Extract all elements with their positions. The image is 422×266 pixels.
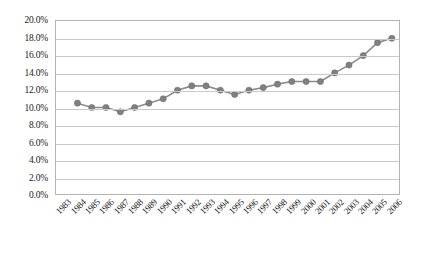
y-tick-label: 16.0% (24, 50, 48, 60)
data-point-marker (89, 104, 95, 110)
gridline (56, 144, 399, 145)
y-tick-label: 2.0% (29, 173, 48, 183)
data-point-marker (346, 62, 352, 68)
data-point-marker (74, 100, 80, 106)
data-point-marker (203, 83, 209, 89)
data-point-marker (132, 104, 138, 110)
data-point-marker (317, 78, 323, 84)
y-tick-label: 8.0% (29, 120, 48, 130)
y-tick-label: 0.0% (29, 190, 48, 200)
y-tick-label: 18.0% (24, 33, 48, 43)
y-tick-label: 14.0% (24, 68, 48, 78)
data-point-marker (146, 100, 152, 106)
gridline (56, 161, 399, 162)
gridline (56, 56, 399, 57)
data-point-marker (374, 40, 380, 46)
data-point-marker (303, 78, 309, 84)
y-tick-label: 6.0% (29, 138, 48, 148)
gridline (56, 179, 399, 180)
data-point-marker (103, 104, 109, 110)
x-tick-label: 2006 (385, 197, 404, 216)
gridline (56, 91, 399, 92)
series-layer (56, 21, 399, 194)
data-point-marker (160, 96, 166, 102)
data-point-marker (117, 109, 123, 115)
series-line (77, 38, 391, 112)
gridline (56, 109, 399, 110)
data-point-marker (232, 91, 238, 97)
y-tick-label: 10.0% (24, 103, 48, 113)
plot-area (55, 20, 400, 195)
y-axis: 0.0%2.0%4.0%6.0%8.0%10.0%12.0%14.0%16.0%… (0, 20, 52, 195)
y-tick-label: 4.0% (29, 155, 48, 165)
y-tick-label: 20.0% (24, 15, 48, 25)
data-point-marker (260, 85, 266, 91)
gridline (56, 126, 399, 127)
line-chart: 0.0%2.0%4.0%6.0%8.0%10.0%12.0%14.0%16.0%… (0, 0, 422, 266)
x-axis: 1983198419851986198719881989199019911992… (55, 197, 400, 263)
gridline (56, 74, 399, 75)
data-point-marker (289, 78, 295, 84)
data-point-marker (274, 81, 280, 87)
gridline (56, 39, 399, 40)
y-tick-label: 12.0% (24, 85, 48, 95)
data-point-marker (189, 83, 195, 89)
